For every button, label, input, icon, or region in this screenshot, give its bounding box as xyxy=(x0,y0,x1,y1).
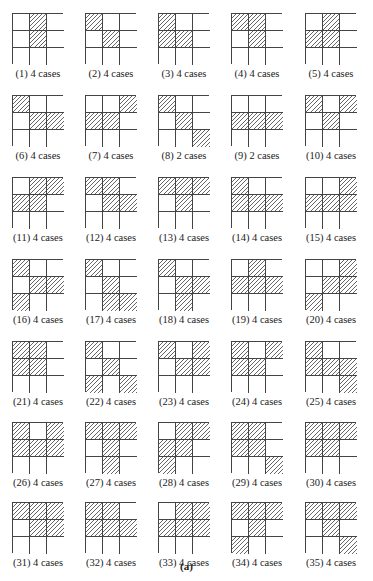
empty-cell xyxy=(13,520,30,537)
hatched-cell xyxy=(120,520,137,537)
empty-cell xyxy=(340,31,357,48)
hatched-cell xyxy=(232,440,249,457)
hatched-cell xyxy=(120,294,137,311)
empty-cell xyxy=(323,537,340,554)
pattern-panel: (26) 4 cases xyxy=(12,422,84,502)
hatched-cell xyxy=(47,113,64,130)
hatched-cell xyxy=(193,520,210,537)
hatched-cell xyxy=(249,113,266,130)
hatched-cell xyxy=(193,178,210,195)
hatched-cell xyxy=(306,423,323,440)
hatched-cell xyxy=(13,440,30,457)
empty-cell xyxy=(47,31,64,48)
empty-cell xyxy=(13,537,30,554)
hatched-cell xyxy=(323,14,340,31)
empty-cell xyxy=(159,423,176,440)
panel-label: (9) 2 cases xyxy=(221,150,293,161)
hatched-cell xyxy=(232,178,249,195)
panel-label: (28) 4 cases xyxy=(148,477,220,488)
panel-label: (10) 4 cases xyxy=(295,150,367,161)
hatched-cell xyxy=(103,195,120,212)
hatched-cell xyxy=(159,96,176,113)
empty-cell xyxy=(86,212,103,229)
hatched-cell xyxy=(120,376,137,393)
empty-cell xyxy=(13,130,30,147)
hatched-cell xyxy=(232,195,249,212)
hatched-cell xyxy=(193,503,210,520)
panel-label: (23) 4 cases xyxy=(148,396,220,407)
pattern-panel: (10) 4 cases xyxy=(305,95,373,175)
hatched-cell xyxy=(323,440,340,457)
empty-cell xyxy=(266,48,283,65)
hatched-cell xyxy=(47,178,64,195)
panel-label: (18) 4 cases xyxy=(148,314,220,325)
hatched-cell xyxy=(232,342,249,359)
hatched-cell xyxy=(249,359,266,376)
empty-cell xyxy=(30,376,47,393)
hatched-cell xyxy=(176,294,193,311)
empty-cell xyxy=(159,195,176,212)
hatched-cell xyxy=(249,503,266,520)
pattern-grid xyxy=(305,95,356,146)
empty-cell xyxy=(47,294,64,311)
hatched-cell xyxy=(159,457,176,474)
empty-cell xyxy=(86,195,103,212)
panel-label: (4) 4 cases xyxy=(221,68,293,79)
empty-cell xyxy=(193,212,210,229)
pattern-panel: (25) 4 cases xyxy=(305,341,373,421)
empty-cell xyxy=(176,48,193,65)
panel-label: (29) 4 cases xyxy=(221,477,293,488)
empty-cell xyxy=(232,520,249,537)
pattern-grid xyxy=(231,259,282,310)
empty-cell xyxy=(266,440,283,457)
pattern-panel: (16) 4 cases xyxy=(12,259,84,339)
hatched-cell xyxy=(13,195,30,212)
hatched-cell xyxy=(266,457,283,474)
hatched-cell xyxy=(47,440,64,457)
empty-cell xyxy=(232,96,249,113)
hatched-cell xyxy=(103,294,120,311)
pattern-panel: (27) 4 cases xyxy=(85,422,157,502)
empty-cell xyxy=(176,260,193,277)
empty-cell xyxy=(30,457,47,474)
hatched-cell xyxy=(232,113,249,130)
empty-cell xyxy=(47,96,64,113)
empty-cell xyxy=(103,14,120,31)
hatched-cell xyxy=(30,31,47,48)
empty-cell xyxy=(176,537,193,554)
empty-cell xyxy=(340,520,357,537)
pattern-grid xyxy=(158,502,209,553)
pattern-panel: (22) 4 cases xyxy=(85,341,157,421)
empty-cell xyxy=(306,376,323,393)
hatched-cell xyxy=(323,503,340,520)
hatched-cell xyxy=(159,440,176,457)
hatched-cell xyxy=(306,31,323,48)
pattern-grid xyxy=(231,13,282,64)
empty-cell xyxy=(232,130,249,147)
empty-cell xyxy=(86,31,103,48)
empty-cell xyxy=(232,376,249,393)
hatched-cell xyxy=(30,520,47,537)
hatched-cell xyxy=(266,342,283,359)
empty-cell xyxy=(176,376,193,393)
hatched-cell xyxy=(176,520,193,537)
empty-cell xyxy=(340,457,357,474)
hatched-cell xyxy=(86,376,103,393)
pattern-panel: (23) 4 cases xyxy=(158,341,230,421)
pattern-grid xyxy=(85,341,136,392)
empty-cell xyxy=(120,537,137,554)
hatched-cell xyxy=(103,457,120,474)
panel-label: (12) 4 cases xyxy=(75,232,147,243)
hatched-cell xyxy=(232,277,249,294)
panel-label: (21) 4 cases xyxy=(2,396,74,407)
pattern-panel: (3) 4 cases xyxy=(158,13,230,93)
empty-cell xyxy=(266,96,283,113)
pattern-panel: (28) 4 cases xyxy=(158,422,230,502)
empty-cell xyxy=(120,503,137,520)
pattern-grid xyxy=(158,13,209,64)
empty-cell xyxy=(266,212,283,229)
empty-cell xyxy=(47,14,64,31)
empty-cell xyxy=(323,376,340,393)
empty-cell xyxy=(266,359,283,376)
hatched-cell xyxy=(103,423,120,440)
